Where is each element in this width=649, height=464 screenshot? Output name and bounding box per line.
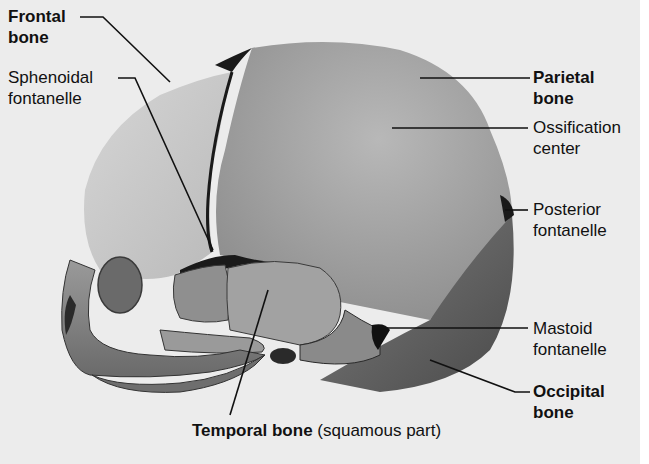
label-posterior-fontanelle: Posterior fontanelle xyxy=(533,199,607,241)
label-temporal-bone: Temporal bone (squamous part) xyxy=(192,420,441,441)
label-occipital-bone: Occipital bone xyxy=(533,381,605,423)
sphenoid-bone-shape xyxy=(173,265,229,322)
label-frontal-bone: Frontal bone xyxy=(8,6,66,48)
leader-frontal xyxy=(80,17,170,82)
label-parietal-bone: Parietal bone xyxy=(533,67,594,109)
orbit-shape xyxy=(98,257,142,313)
temporal-bone-name: Temporal bone xyxy=(192,421,313,440)
label-sphenoidal-fontanelle: Sphenoidal fontanelle xyxy=(8,67,93,109)
right-margin xyxy=(640,0,649,464)
label-ossification-center: Ossification center xyxy=(533,117,621,159)
temporal-bone-shape xyxy=(227,262,341,346)
temporal-bone-qualifier: (squamous part) xyxy=(317,421,441,440)
diagram-canvas: Frontal bone Sphenoidal fontanelle Parie… xyxy=(0,0,640,464)
external-acoustic-meatus xyxy=(270,348,296,364)
label-mastoid-fontanelle: Mastoid fontanelle xyxy=(533,318,607,360)
